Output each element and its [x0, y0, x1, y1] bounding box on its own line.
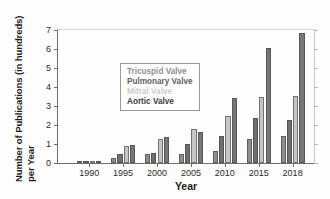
- y-tick: [54, 49, 58, 50]
- bar: [287, 120, 292, 163]
- bar: [198, 132, 203, 163]
- bar: [151, 153, 156, 163]
- bar: [117, 154, 122, 163]
- bar: [111, 158, 116, 163]
- bar: [130, 145, 135, 163]
- y-axis-title-line-2: per Year: [25, 145, 36, 182]
- y-tick: [54, 87, 58, 88]
- y-tick-label: 2: [46, 120, 51, 130]
- y-axis-title-line-1: Number of Publications (in hundreds): [13, 16, 24, 182]
- legend-entry-tricuspid: Tricuspid Valve: [127, 67, 193, 77]
- bar: [219, 136, 224, 163]
- bar: [124, 146, 129, 163]
- x-tick: [191, 163, 192, 167]
- y-tick: [54, 163, 58, 164]
- x-tick-label: 1995: [113, 168, 133, 178]
- bar: [77, 161, 82, 163]
- x-tick: [89, 163, 90, 167]
- bar: [185, 144, 190, 163]
- bar: [83, 161, 88, 163]
- bar: [191, 129, 196, 163]
- y-tick: [54, 144, 58, 145]
- y-tick-label: 7: [46, 25, 51, 35]
- figure-canvas: Number of Publications (in hundreds) per…: [0, 0, 330, 199]
- y-tick: [54, 68, 58, 69]
- bar: [158, 139, 163, 163]
- y-tick-right: [314, 68, 318, 69]
- bar: [281, 136, 286, 163]
- legend-entry-aortic: Aortic Valve: [127, 97, 193, 107]
- x-tick-label: 2018: [283, 168, 303, 178]
- bar: [253, 118, 258, 163]
- y-tick-label: 4: [46, 82, 51, 92]
- bar: [232, 98, 237, 163]
- legend-entry-pulmonary: Pulmonary Valve: [127, 77, 193, 87]
- bar: [225, 116, 230, 164]
- x-tick: [157, 163, 158, 167]
- x-tick-label: 2010: [215, 168, 235, 178]
- x-tick: [293, 163, 294, 167]
- bar: [247, 139, 252, 163]
- x-tick: [259, 163, 260, 167]
- bar: [293, 96, 298, 163]
- legend: Tricuspid Valve Pulmonary Valve Mitral V…: [120, 63, 200, 111]
- bar: [213, 151, 218, 163]
- y-tick-right: [314, 163, 318, 164]
- y-tick-right: [314, 125, 318, 126]
- x-tick-label: 2015: [249, 168, 269, 178]
- y-tick-label: 1: [46, 139, 51, 149]
- y-tick-right: [314, 106, 318, 107]
- y-tick: [54, 125, 58, 126]
- bar: [259, 97, 264, 164]
- bar: [145, 154, 150, 163]
- y-tick: [54, 106, 58, 107]
- x-tick: [123, 163, 124, 167]
- y-tick-label: 5: [46, 63, 51, 73]
- y-tick-right: [314, 87, 318, 88]
- x-axis-title: Year: [57, 180, 315, 192]
- bar: [266, 48, 271, 163]
- x-tick: [225, 163, 226, 167]
- y-tick-label: 3: [46, 101, 51, 111]
- y-tick-right: [314, 30, 318, 31]
- y-tick-label: 0: [46, 158, 51, 168]
- bar: [299, 33, 304, 163]
- bar: [179, 154, 184, 163]
- y-axis-title: Number of Publications (in hundreds) per…: [0, 0, 40, 199]
- y-tick: [54, 30, 58, 31]
- plot-area: 01234567 1990199520002005201020152018 Tr…: [57, 29, 315, 164]
- x-tick-label: 1990: [79, 168, 99, 178]
- bar: [96, 161, 101, 163]
- bar: [164, 137, 169, 163]
- x-tick-label: 2005: [181, 168, 201, 178]
- x-tick-label: 2000: [147, 168, 167, 178]
- bar: [90, 161, 95, 163]
- y-tick-right: [314, 144, 318, 145]
- y-tick-right: [314, 49, 318, 50]
- y-tick-label: 6: [46, 44, 51, 54]
- legend-entry-mitral: Mitral Valve: [127, 87, 193, 97]
